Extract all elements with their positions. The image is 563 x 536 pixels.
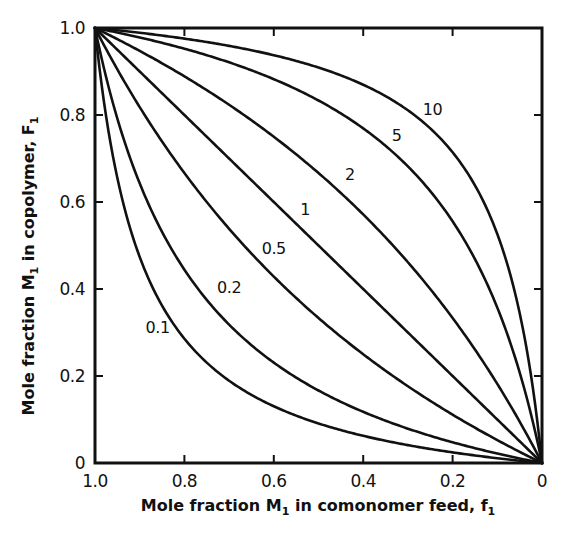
y-ticks-group: 00.20.40.60.81.0 [59,18,542,473]
x-tick-label: 0.4 [350,471,376,491]
series-label-0_2: 0.2 [217,278,241,297]
series-label-1: 1 [300,200,310,219]
y-tick-label: 0.6 [59,192,85,212]
series-labels-group: 0.10.20.512510 [146,100,443,337]
y-tick-label: 0.4 [59,279,85,299]
x-tick-label: 0 [537,471,547,491]
y-axis-title: Mole fraction M1 in copolymer, F1 [19,117,41,416]
series-label-0_1: 0.1 [146,318,170,337]
x-tick-label: 1.0 [82,471,108,491]
curve-r1-1 [95,28,542,463]
series-label-5: 5 [392,126,402,145]
x-axis-title: Mole fraction M1 in comonomer feed, f1 [141,496,496,518]
y-tick-label: 1.0 [59,18,85,38]
series-label-2: 2 [345,165,355,184]
copolymer-composition-chart: 0.10.20.512510 1.00.80.60.40.20 00.20.40… [0,0,563,536]
x-tick-label: 0.6 [261,471,287,491]
series-label-0_5: 0.5 [262,239,286,258]
x-tick-label: 0.8 [172,471,198,491]
y-tick-label: 0 [75,453,85,473]
series-label-10: 10 [423,100,443,119]
curves-group [95,28,542,463]
y-tick-label: 0.8 [59,105,85,125]
x-tick-label: 0.2 [440,471,466,491]
y-tick-label: 0.2 [59,366,85,386]
